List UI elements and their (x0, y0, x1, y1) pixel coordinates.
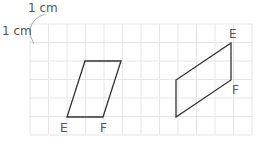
vertex-label-f: F (100, 121, 107, 135)
scale-brace-top (30, 14, 45, 30)
scale-label-left: 1 cm (2, 24, 32, 38)
scale-label-top: 1 cm (28, 1, 58, 15)
diagram-canvas: 1 cm 1 cm EFEF (0, 0, 256, 146)
shapes: EFEF (60, 27, 239, 135)
grid (30, 24, 252, 135)
vertex-label-e: E (229, 27, 237, 41)
vertex-label-f: F (232, 83, 239, 97)
vertex-label-e: E (60, 121, 68, 135)
left-parallelogram (67, 61, 121, 117)
